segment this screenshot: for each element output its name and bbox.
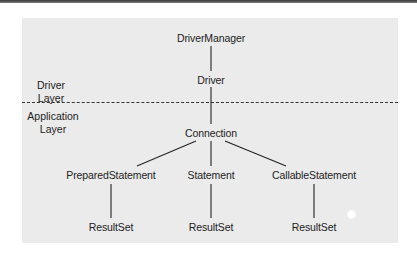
driver-layer-line2: Layer [37, 92, 65, 105]
application-layer-line1: Application [27, 110, 78, 123]
driver-layer-label: Driver Layer [37, 79, 65, 105]
node-resultset-callable: ResultSet [292, 221, 337, 233]
application-layer-line2: Layer [27, 123, 78, 136]
scan-artifact-dot [347, 210, 356, 219]
application-layer-label: Application Layer [27, 110, 78, 136]
node-callablestatement: CallableStatement [272, 169, 356, 181]
node-preparedstatement: PreparedStatement [66, 169, 155, 181]
node-driver: Driver [197, 74, 224, 86]
edge-connection-prepared [137, 141, 196, 166]
node-connection: Connection [185, 127, 237, 139]
driver-layer-line1: Driver [37, 79, 65, 92]
node-resultset-prepared: ResultSet [89, 221, 134, 233]
edge-connection-callable [225, 141, 286, 166]
node-statement: Statement [188, 169, 235, 181]
node-drivermanager: DriverManager [177, 32, 245, 44]
node-resultset-statement: ResultSet [189, 221, 234, 233]
